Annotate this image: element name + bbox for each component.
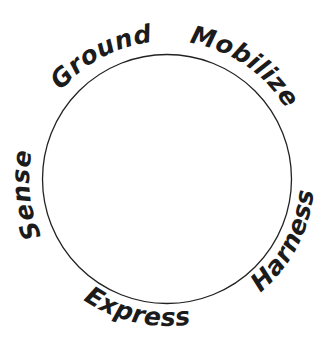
label-harness-text: Harness xyxy=(245,187,320,297)
label-ground: Ground xyxy=(44,19,154,95)
cycle-circle xyxy=(43,55,292,304)
label-harness: Harness xyxy=(245,187,320,297)
label-express: Express xyxy=(80,280,192,332)
label-sense: Sense xyxy=(6,148,47,245)
label-mobilize-text: Mobilize xyxy=(188,20,306,112)
label-mobilize: Mobilize xyxy=(188,20,306,112)
diagram-canvas: Ground Mobilize Sense Harness Express xyxy=(0,0,335,349)
cycle-diagram: Ground Mobilize Sense Harness Express xyxy=(0,0,335,349)
label-sense-text: Sense xyxy=(6,148,47,245)
label-ground-text: Ground xyxy=(44,19,154,95)
label-express-text: Express xyxy=(80,280,192,332)
